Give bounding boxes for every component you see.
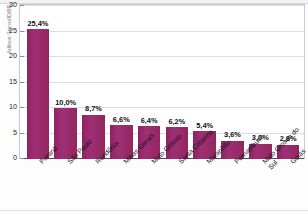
chart-figure: Adilson Secco/ID/BR Em porcentagem 05101… xyxy=(0,0,308,212)
y-tick-label: 25 xyxy=(9,27,17,34)
bar[interactable] xyxy=(27,29,50,159)
x-axis-labels: ParanáSão PauloRondôniaMinas GeraisMato … xyxy=(24,160,302,212)
bar-slot: 25,4% xyxy=(24,4,52,159)
y-tick-label: 5 xyxy=(13,129,17,136)
y-tick-label: 0 xyxy=(13,154,17,161)
bar-value-label: 10,0% xyxy=(55,99,76,106)
y-tick-label: 20 xyxy=(9,52,17,59)
y-tick-label: 10 xyxy=(9,103,17,110)
y-tick-label: 30 xyxy=(9,1,17,8)
bottom-divider xyxy=(0,210,308,211)
y-tick-label: 15 xyxy=(9,78,17,85)
bar-value-label: 25,4% xyxy=(27,20,48,27)
